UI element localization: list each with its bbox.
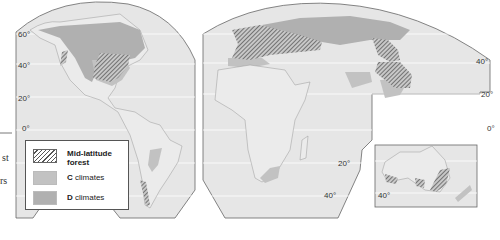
lat-label-africa-20: 20°	[338, 159, 350, 168]
lat-label-40: 40°	[18, 61, 30, 70]
lat-label-right-20: 20°	[481, 90, 493, 99]
lat-label-60: 60°	[18, 30, 30, 39]
lat-label-right-0: 0°	[487, 124, 495, 133]
legend-item-c-climates: C climates	[26, 171, 104, 185]
lat-label-0: 0°	[22, 124, 30, 133]
legend-c-text: climates	[73, 173, 105, 182]
side-text-fragment-1: st	[2, 152, 9, 163]
d-climate-swatch-icon	[33, 191, 57, 205]
map-legend: Mid-latitude forest C climates D climate…	[25, 140, 129, 210]
legend-d-text: climates	[73, 193, 105, 202]
lat-label-australia-40: 40°	[378, 191, 390, 200]
australia-inset	[375, 145, 477, 207]
hatched-swatch-icon	[33, 149, 57, 163]
side-text-fragment-2: rs	[0, 175, 7, 186]
lat-label-africa-40: 40°	[324, 191, 336, 200]
lat-label-right-40: 40°	[476, 57, 488, 66]
lat-label-20: 20°	[18, 94, 30, 103]
legend-item-d-climates: D climates	[26, 191, 104, 205]
c-climate-swatch-icon	[33, 171, 57, 185]
legend-forest-line2: forest	[67, 158, 89, 167]
legend-forest-line1: Mid-latitude	[67, 149, 112, 158]
legend-item-forest: Mid-latitude forest	[26, 149, 112, 167]
